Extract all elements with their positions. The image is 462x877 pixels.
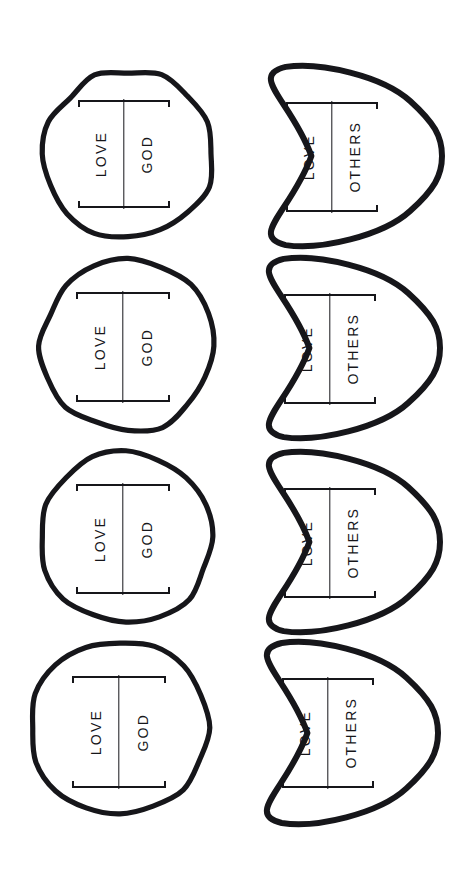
template-sheet: LOVEGODLOVEOTHERSLOVEGODLOVEOTHERSLOVEGO… [0,0,462,877]
label-text-group: LOVEOTHERS [286,104,378,211]
label-line-1: LOVE [298,710,312,756]
label-block: LOVEGOD [76,484,170,594]
label-line-2: GOD [140,328,154,367]
bracket-rule-bottom [284,402,376,404]
label-text-group: LOVEOTHERS [282,680,374,787]
heart-cutout[interactable]: LOVEOTHERS [248,58,446,254]
label-divider-line [331,101,332,214]
circle-cutout[interactable]: LOVEGOD [38,258,218,434]
label-divider-line [329,487,330,600]
label-block: LOVEOTHERS [284,488,376,598]
bracket-rule-bottom [286,210,378,212]
label-text-group: LOVEGOD [72,678,166,787]
label-divider-line [118,675,119,790]
label-line-1: LOVE [93,324,107,370]
label-block: LOVEGOD [72,676,166,788]
label-block: LOVEGOD [76,292,170,402]
label-line-1: LOVE [302,134,316,180]
label-divider-line [123,99,124,210]
label-text-group: LOVEOTHERS [284,490,376,597]
label-block: LOVEOTHERS [284,294,376,404]
label-divider-line [122,483,123,596]
label-line-2: OTHERS [346,507,360,579]
label-line-2: OTHERS [348,121,362,193]
bracket-rule-bottom [76,592,170,594]
label-line-1: LOVE [89,709,103,755]
label-divider-line [327,677,328,790]
bracket-rule-bottom [72,786,166,788]
label-line-2: GOD [136,713,150,752]
label-line-2: GOD [140,520,154,559]
bracket-rule-bottom [78,206,170,208]
bracket-rule-bottom [282,786,374,788]
label-text-group: LOVEOTHERS [284,296,376,403]
circle-cutout[interactable]: LOVEGOD [40,68,216,240]
label-line-2: OTHERS [344,697,358,769]
bracket-rule-bottom [284,596,376,598]
label-line-1: LOVE [300,520,314,566]
label-divider-line [329,293,330,406]
label-block: LOVEOTHERS [286,102,378,212]
label-text-group: LOVEGOD [78,102,170,207]
circle-cutout[interactable]: LOVEGOD [28,638,212,818]
circle-cutout[interactable]: LOVEGOD [36,448,216,626]
label-text-group: LOVEGOD [76,486,170,593]
label-line-1: LOVE [93,516,107,562]
label-text-group: LOVEGOD [76,294,170,401]
label-line-1: LOVE [94,131,108,177]
heart-cutout[interactable]: LOVEOTHERS [246,250,444,446]
heart-cutout[interactable]: LOVEOTHERS [244,634,442,832]
label-line-1: LOVE [300,326,314,372]
label-line-2: GOD [140,135,154,174]
label-line-2: OTHERS [346,313,360,385]
label-block: LOVEGOD [78,100,170,208]
heart-cutout[interactable]: LOVEOTHERS [246,444,444,640]
label-block: LOVEOTHERS [282,678,374,788]
bracket-rule-bottom [76,400,170,402]
label-divider-line [122,291,123,404]
